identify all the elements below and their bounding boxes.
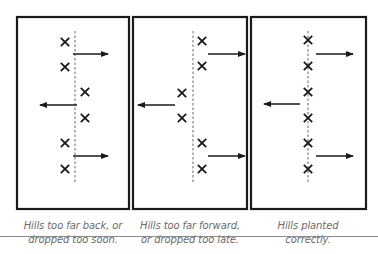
hill-x-icon xyxy=(81,88,89,96)
panel-frame xyxy=(133,17,247,209)
hill-x-icon xyxy=(198,62,206,70)
panel-frame xyxy=(17,17,129,209)
hill-x-icon xyxy=(198,37,206,45)
hill-x-icon xyxy=(304,114,312,122)
caption-too-far-forward: Hills too far forward, or dropped too la… xyxy=(130,219,250,247)
hill-x-icon xyxy=(198,139,206,147)
caption-line-1: Hills too far forward, xyxy=(130,219,250,233)
caption-line-1: Hills planted xyxy=(248,219,368,233)
panel-planted-correctly xyxy=(251,17,366,209)
hill-x-icon xyxy=(81,114,89,122)
panel-too-far-back xyxy=(17,17,129,209)
hill-x-icon xyxy=(178,114,186,122)
panel-frame xyxy=(251,17,366,209)
hill-x-icon xyxy=(61,165,69,173)
caption-planted-correctly: Hills planted correctly. xyxy=(248,219,368,247)
hill-x-icon xyxy=(61,63,69,71)
hill-x-icon xyxy=(198,165,206,173)
panel-too-far-forward xyxy=(133,17,247,209)
hill-x-icon xyxy=(61,38,69,46)
hill-x-icon xyxy=(61,139,69,147)
panels-layer xyxy=(17,17,366,209)
caption-too-far-back: Hills too far back, or dropped too soon. xyxy=(13,219,133,247)
hill-x-icon xyxy=(178,89,186,97)
caption-line-1: Hills too far back, or xyxy=(13,219,133,233)
hill-drop-diagram xyxy=(0,0,378,254)
horizontal-rule xyxy=(0,236,378,237)
